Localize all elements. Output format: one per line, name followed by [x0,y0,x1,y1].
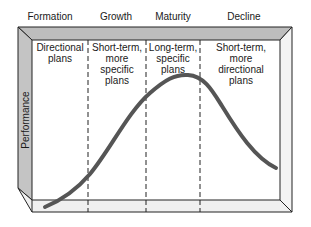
stage-decline: Decline [227,11,260,22]
y-axis-label: Performance [20,91,31,148]
stage-maturity: Maturity [155,11,191,22]
column-decline-text: Short-term, more directional plans [216,42,266,86]
column-formation-text: Directional plans [36,42,83,64]
frame-right-slab [280,27,292,212]
diagram-canvas [0,0,311,227]
frame-top-slab [18,27,292,40]
column-growth-text: Short-term, more specific plans [92,42,142,86]
stage-formation: Formation [27,11,72,22]
performance-curve [45,75,276,207]
stage-growth: Growth [100,11,132,22]
column-maturity-text: Long-term, specific plans [149,42,197,75]
